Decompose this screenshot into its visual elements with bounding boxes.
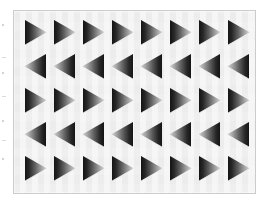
triangle-right — [23, 19, 48, 46]
triangle-right — [81, 155, 106, 182]
margin-artifact-mark — [2, 57, 6, 58]
triangle-right — [139, 155, 164, 182]
triangle-left — [23, 53, 48, 80]
triangle-panel — [13, 10, 256, 194]
triangle-right — [226, 87, 251, 114]
triangle-left — [168, 121, 193, 148]
triangle-grid — [14, 11, 255, 193]
triangle-right — [139, 87, 164, 114]
triangle-left — [197, 53, 222, 80]
triangle-row — [14, 19, 255, 46]
triangle-left — [139, 53, 164, 80]
triangle-right — [52, 19, 77, 46]
triangle-left — [168, 53, 193, 80]
triangle-right — [52, 155, 77, 182]
scan-margin-artifacts — [0, 0, 13, 208]
margin-artifact-mark — [2, 72, 4, 74]
triangle-left — [52, 121, 77, 148]
triangle-right — [197, 87, 222, 114]
triangle-left — [226, 53, 251, 80]
margin-artifact-mark — [2, 120, 4, 122]
triangle-right — [197, 19, 222, 46]
triangle-left — [23, 121, 48, 148]
triangle-right — [226, 19, 251, 46]
triangle-row — [14, 155, 255, 182]
triangle-left — [197, 121, 222, 148]
triangle-right — [168, 87, 193, 114]
triangle-left — [226, 121, 251, 148]
triangle-left — [110, 53, 135, 80]
triangle-left — [110, 121, 135, 148]
triangle-left — [81, 53, 106, 80]
triangle-right — [110, 155, 135, 182]
triangle-row — [14, 121, 255, 148]
triangle-right — [168, 19, 193, 46]
triangle-right — [23, 87, 48, 114]
triangle-left — [52, 53, 77, 80]
triangle-right — [81, 87, 106, 114]
margin-artifact-mark — [2, 24, 4, 26]
margin-artifact-mark — [2, 140, 6, 141]
triangle-row — [14, 53, 255, 80]
margin-artifact-mark — [2, 96, 6, 97]
triangle-left — [139, 121, 164, 148]
triangle-right — [110, 19, 135, 46]
triangle-right — [168, 155, 193, 182]
triangle-right — [110, 87, 135, 114]
triangle-right — [81, 19, 106, 46]
triangle-right — [226, 155, 251, 182]
triangle-right — [52, 87, 77, 114]
margin-artifact-mark — [2, 158, 4, 160]
triangle-left — [81, 121, 106, 148]
triangle-right — [197, 155, 222, 182]
triangle-right — [139, 19, 164, 46]
triangle-row — [14, 87, 255, 114]
triangle-right — [23, 155, 48, 182]
figure-root — [0, 0, 266, 208]
